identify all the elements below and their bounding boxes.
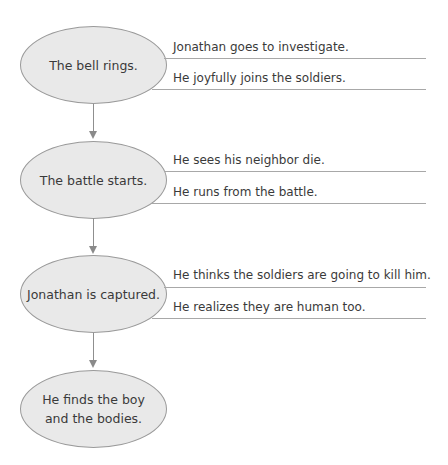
detail-line <box>164 58 426 59</box>
detail-text: He realizes they are human too. <box>173 300 366 314</box>
event-label: Jonathan is captured. <box>27 285 160 304</box>
event-label: The battle starts. <box>40 171 147 190</box>
event-label-line: and the bodies. <box>42 409 145 428</box>
event-node-2: The battle starts. <box>20 141 167 219</box>
event-label-line: He finds the boy <box>42 390 145 409</box>
event-node-1: The bell rings. <box>20 26 167 104</box>
detail-text: He sees his neighbor die. <box>173 153 325 167</box>
detail-text: Jonathan goes to investigate. <box>173 40 349 54</box>
arrow-down-icon <box>89 360 97 368</box>
event-node-4: He finds the boy and the bodies. <box>20 370 167 448</box>
detail-text: He runs from the battle. <box>173 185 318 199</box>
arrow-down-icon <box>89 246 97 254</box>
event-node-3: Jonathan is captured. <box>20 255 167 333</box>
detail-line <box>164 171 426 172</box>
event-label: The bell rings. <box>49 56 138 75</box>
detail-text: He joyfully joins the soldiers. <box>173 71 346 85</box>
arrow-down-icon <box>89 131 97 139</box>
detail-line <box>152 89 426 90</box>
connector-line <box>93 333 94 361</box>
connector-line <box>93 218 94 247</box>
detail-line <box>164 287 426 288</box>
connector-line <box>93 104 94 132</box>
detail-line <box>152 203 426 204</box>
detail-text: He thinks the soldiers are going to kill… <box>173 268 431 282</box>
detail-line <box>152 318 426 319</box>
